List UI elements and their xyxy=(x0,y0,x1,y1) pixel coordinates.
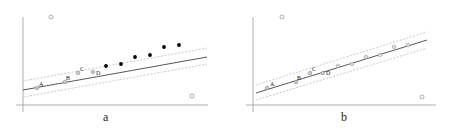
point-a xyxy=(265,86,269,90)
gray-point xyxy=(350,62,354,66)
label-d: D xyxy=(326,70,331,76)
black-point xyxy=(148,53,152,57)
band-upper xyxy=(256,32,427,85)
gray-point xyxy=(378,53,382,57)
black-point xyxy=(177,43,181,47)
band-lower xyxy=(23,64,207,97)
outlier-point xyxy=(280,15,284,19)
panel-b: A B C D xyxy=(246,15,436,112)
point-d xyxy=(91,70,95,74)
label-d: D xyxy=(96,70,101,76)
outlier-point xyxy=(49,15,53,19)
outlier-point xyxy=(190,94,194,98)
band-upper xyxy=(23,48,207,81)
band-lower xyxy=(256,48,427,100)
label-b: B xyxy=(297,75,301,81)
label-c: C xyxy=(312,66,316,72)
point-d xyxy=(321,71,325,75)
panel-a: A B C D xyxy=(16,15,208,112)
regression-line xyxy=(256,40,427,93)
outlier-point xyxy=(420,95,424,99)
black-point xyxy=(133,55,137,59)
gray-point xyxy=(392,45,396,49)
panel-b-caption: b xyxy=(341,110,347,125)
label-a: A xyxy=(270,81,275,87)
gray-point xyxy=(406,43,410,47)
panel-a-caption: a xyxy=(103,110,108,125)
gray-point xyxy=(336,64,340,68)
label-b: B xyxy=(66,75,70,81)
black-point xyxy=(104,64,108,68)
black-point xyxy=(119,62,123,66)
gray-point xyxy=(364,55,368,59)
regression-line xyxy=(23,57,207,90)
black-point xyxy=(162,45,166,49)
label-c: C xyxy=(80,66,84,72)
label-a: A xyxy=(39,81,44,87)
figure-canvas: A B C D A B C D xyxy=(0,0,451,128)
